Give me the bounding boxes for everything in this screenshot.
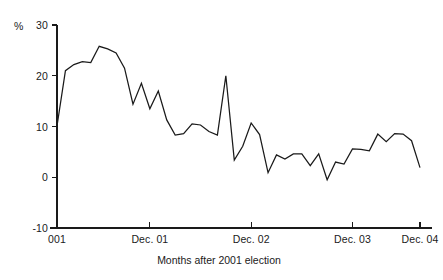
y-tick-marks <box>52 25 57 228</box>
y-tick-label: -10 <box>33 223 48 234</box>
data-series-line <box>57 46 420 179</box>
x-axis <box>50 222 432 228</box>
y-axis <box>52 25 57 228</box>
y-tick-label: 20 <box>36 71 48 82</box>
x-tick-label: Dec. 04 <box>201 234 443 245</box>
y-tick-label: 10 <box>36 122 48 133</box>
x-tick-marks <box>57 222 420 228</box>
x-axis-title: Months after 2001 election <box>0 254 438 266</box>
y-tick-label: 0 <box>42 172 48 183</box>
y-axis-unit-label: % <box>14 20 23 32</box>
y-tick-label: 30 <box>36 20 48 31</box>
